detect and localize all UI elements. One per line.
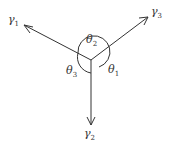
- label-theta1: θ1: [108, 64, 119, 78]
- label-gamma3: γ3: [151, 6, 162, 20]
- label-theta2: θ2: [86, 34, 97, 48]
- label-gamma1: γ1: [8, 14, 19, 28]
- label-gamma2: γ2: [84, 128, 95, 142]
- vector-gamma3: [91, 17, 148, 60]
- label-theta3: θ3: [66, 65, 77, 79]
- vector-diagram: [0, 0, 170, 144]
